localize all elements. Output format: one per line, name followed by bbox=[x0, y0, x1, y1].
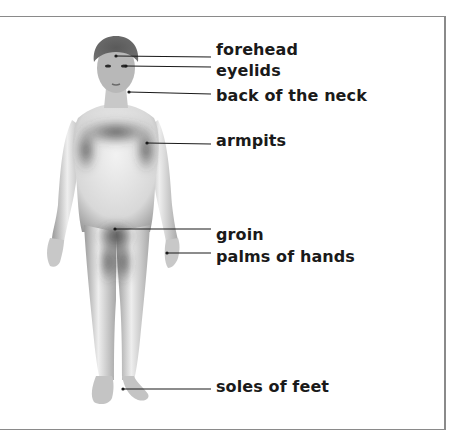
head bbox=[94, 36, 139, 93]
label-eyelids: eyelids bbox=[216, 61, 281, 80]
label-palms-of-hands: palms of hands bbox=[216, 247, 355, 266]
label-soles-of-feet: soles of feet bbox=[216, 377, 329, 396]
leader-eyelids bbox=[126, 66, 211, 67]
label-armpits: armpits bbox=[216, 131, 286, 150]
label-groin: groin bbox=[216, 225, 264, 244]
leader-back-of-neck bbox=[129, 92, 211, 94]
label-back-of-neck: back of the neck bbox=[216, 86, 367, 105]
label-forehead: forehead bbox=[216, 40, 298, 59]
